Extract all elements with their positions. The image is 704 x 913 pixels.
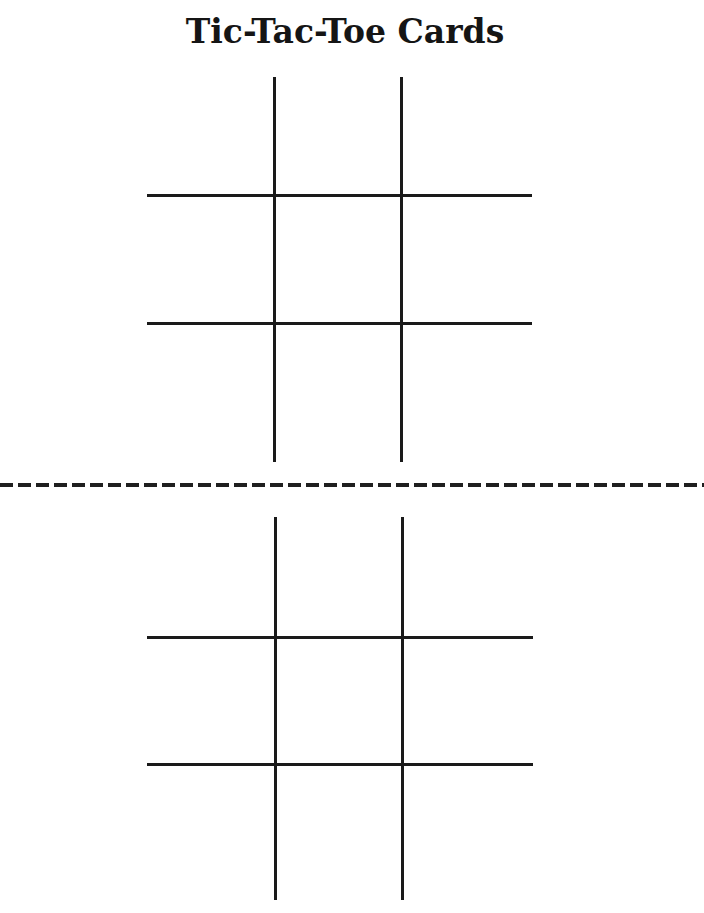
grid-line-vertical-right [400, 77, 403, 462]
grid-line-horizontal-bottom [147, 763, 533, 766]
grid-line-horizontal-top [147, 636, 533, 639]
grid-line-vertical-left [273, 77, 276, 462]
grid-line-horizontal-top [147, 194, 532, 197]
grid-line-vertical-left [274, 517, 277, 900]
dashed-cut-line [0, 483, 704, 487]
page-title: Tic-Tac-Toe Cards [0, 12, 690, 52]
grid-line-vertical-right [401, 517, 404, 900]
grid-line-horizontal-bottom [147, 322, 532, 325]
